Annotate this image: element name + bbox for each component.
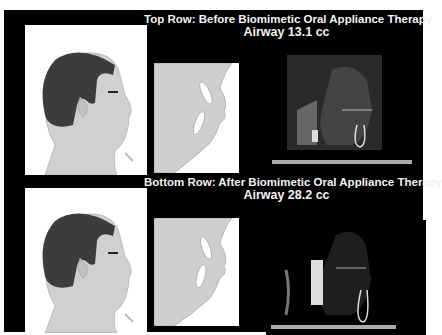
bottom-row-heading: Bottom Row: After Biomimetic Oral Applia…	[144, 176, 442, 188]
top-row-heading: Top Row: Before Biomimetic Oral Applianc…	[144, 13, 432, 25]
comparison-panel: Top Row: Before Biomimetic Oral Applianc…	[4, 10, 423, 332]
mouth-closeup-before	[154, 63, 239, 173]
bottom-row-airway: Airway 28.2 cc	[144, 189, 429, 202]
top-row-title: Top Row: Before Biomimetic Oral Applianc…	[144, 13, 429, 39]
ct-scan-before	[272, 50, 422, 175]
ct-scan-after	[266, 220, 426, 335]
profile-illustration-after	[25, 188, 147, 333]
bottom-row-title: Bottom Row: After Biomimetic Oral Applia…	[144, 176, 429, 202]
mouth-closeup-after	[154, 218, 239, 326]
top-row-airway: Airway 13.1 cc	[144, 26, 429, 39]
profile-illustration-before	[25, 25, 147, 175]
